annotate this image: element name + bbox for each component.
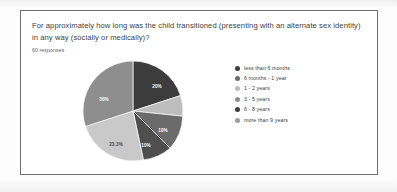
legend-item-6-months-1-year[interactable]: 6 months - 1 year — [235, 73, 375, 83]
scan-edge-top — [0, 0, 397, 9]
pie-chart: 20% 10% 10% 23.3% 30% — [82, 60, 184, 162]
screenshot-root: For approximately how long was the child… — [0, 0, 397, 192]
pie-chart-svg: 20% 10% 10% 23.3% 30% — [82, 60, 184, 162]
page-title: For approximately how long was the child… — [32, 20, 362, 43]
legend-item-label: less than 6 months — [244, 65, 290, 72]
legend-item-3-5-years[interactable]: 3 - 5 years — [235, 94, 375, 104]
legend-item-label: 6 - 8 years — [244, 106, 270, 113]
legend-swatch-icon — [235, 97, 240, 102]
legend-item-6-8-years[interactable]: 6 - 8 years — [235, 105, 375, 115]
survey-result-card: For approximately how long was the child… — [20, 10, 378, 175]
chart-legend: less than 6 months 6 months - 1 year 1 -… — [235, 63, 375, 125]
pie-label-30: 30% — [99, 97, 109, 102]
legend-item-1-2-years[interactable]: 1 - 2 years — [235, 84, 375, 94]
response-count: 60 responses — [32, 46, 366, 54]
legend-swatch-icon — [235, 107, 240, 112]
chart-area: 20% 10% 10% 23.3% 30% less than 6 months — [32, 56, 366, 168]
scan-edge-bottom — [0, 178, 397, 192]
pie-label-20: 20% — [152, 84, 162, 89]
pie-label-10-a: 10% — [158, 128, 168, 133]
legend-item-label: more than 9 years — [244, 117, 288, 124]
legend-item-label: 1 - 2 years — [244, 85, 270, 92]
legend-swatch-icon — [235, 86, 240, 91]
legend-swatch-icon — [235, 76, 240, 81]
card-content: For approximately how long was the child… — [21, 11, 377, 174]
legend-swatch-icon — [235, 66, 240, 71]
legend-swatch-icon — [235, 118, 240, 123]
pie-label-10-b: 10% — [141, 143, 151, 148]
legend-item-less-than-6-months[interactable]: less than 6 months — [235, 63, 375, 73]
legend-item-more-than-9-years[interactable]: more than 9 years — [235, 115, 375, 125]
legend-item-label: 6 months - 1 year — [244, 75, 287, 82]
pie-label-23-3: 23.3% — [109, 142, 123, 147]
legend-item-label: 3 - 5 years — [244, 96, 270, 103]
